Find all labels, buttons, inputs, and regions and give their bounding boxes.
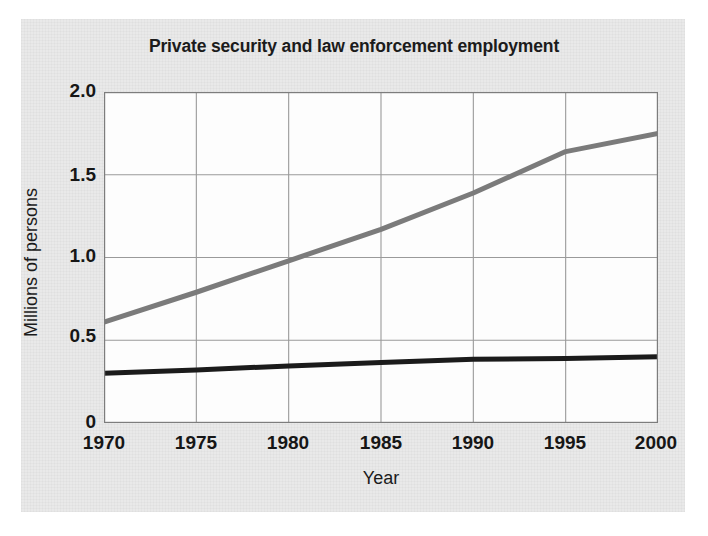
chart-title: Private security and law enforcement emp… <box>0 36 708 57</box>
chart-figure: Private security and law enforcement emp… <box>0 0 708 536</box>
x-tick-label-1995: 1995 <box>520 432 610 454</box>
y-tick-label-2.0: 2.0 <box>28 80 96 102</box>
grid-lines <box>104 92 658 423</box>
y-tick-label-0: 0 <box>28 411 96 433</box>
x-tick-label-2000: 2000 <box>611 432 701 454</box>
x-tick-label-1990: 1990 <box>428 432 518 454</box>
x-axis-title: Year <box>104 468 658 489</box>
x-tick-label-1980: 1980 <box>243 432 333 454</box>
x-tick-label-1985: 1985 <box>336 432 426 454</box>
chart-plot-svg <box>104 92 658 423</box>
plot-area <box>104 92 658 423</box>
x-tick-label-1975: 1975 <box>151 432 241 454</box>
x-tick-label-1970: 1970 <box>59 432 149 454</box>
y-axis-title: Millions of persons <box>21 133 42 393</box>
